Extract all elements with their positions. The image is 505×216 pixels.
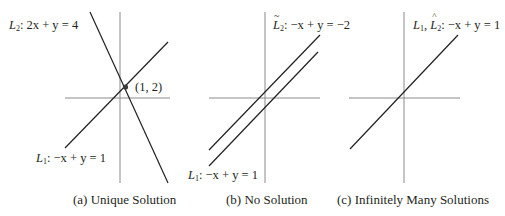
line-var: L xyxy=(9,18,16,32)
tilde-accent: ~ xyxy=(274,11,279,21)
label-l2-tilde-b: L~2: −x + y = −2 xyxy=(273,19,350,33)
line-equation: : −x + y = 1 xyxy=(441,18,500,32)
hat-accent: ^ xyxy=(432,12,436,21)
line-equation: : −x + y = 1 xyxy=(47,151,106,165)
panel-a-line-l1 xyxy=(65,42,168,148)
panel-b-graph xyxy=(209,12,320,183)
line-var-accented: L^ xyxy=(430,19,437,32)
line-var: L xyxy=(413,18,420,32)
line-var: L xyxy=(36,151,43,165)
line-var: L xyxy=(188,168,195,182)
intersection-point xyxy=(123,84,128,89)
caption-b: (b) No Solution xyxy=(226,193,308,206)
label-l1-l2-hat-c: L1, L^2: −x + y = 1 xyxy=(413,19,500,33)
panel-b-line-l2-tilde xyxy=(209,52,318,166)
label-l1-b: L1: −x + y = 1 xyxy=(188,169,258,183)
label-l1-a: L1: −x + y = 1 xyxy=(36,152,106,166)
caption-c: (c) Infinitely Many Solutions xyxy=(337,193,489,206)
panel-c-graph xyxy=(349,12,460,183)
line-equation: : −x + y = −2 xyxy=(284,18,350,32)
line-equation: : 2x + y = 4 xyxy=(20,18,78,32)
line-equation: : −x + y = 1 xyxy=(199,168,258,182)
line-var-accented: L~ xyxy=(273,19,280,32)
label-point: (1, 2) xyxy=(135,81,162,94)
label-l2-a: L2: 2x + y = 4 xyxy=(9,19,78,33)
caption-a: (a) Unique Solution xyxy=(73,193,176,206)
